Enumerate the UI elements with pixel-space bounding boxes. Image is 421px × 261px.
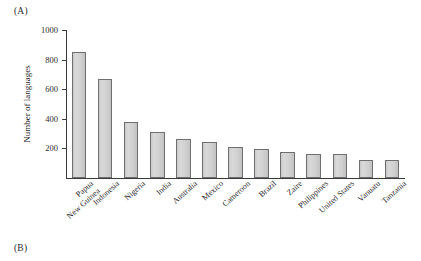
bar bbox=[72, 52, 87, 178]
x-tick-label: Cameroon bbox=[220, 179, 252, 209]
x-tick-label: Vanuatu bbox=[356, 179, 382, 204]
x-tick-label: Zaire bbox=[285, 179, 304, 198]
figure-panel-a: (A) Number of languages 2004006008001000… bbox=[0, 0, 421, 261]
bar bbox=[124, 122, 139, 178]
bar bbox=[359, 160, 374, 179]
x-tick-label: Brazil bbox=[257, 179, 278, 199]
bar bbox=[385, 160, 400, 178]
y-axis-title: Number of languages bbox=[20, 30, 34, 178]
y-tick-label: 400 bbox=[45, 114, 58, 124]
bar bbox=[202, 142, 217, 178]
bar bbox=[150, 132, 165, 178]
bar-series bbox=[66, 30, 405, 178]
x-axis-tick-labels: Papua New GuineaIndonesiaNigeriaIndiaAus… bbox=[66, 179, 411, 241]
bar bbox=[306, 154, 321, 178]
bar bbox=[333, 154, 348, 178]
y-tick-label: 800 bbox=[45, 55, 58, 65]
bar bbox=[98, 79, 113, 178]
y-tick-label: 200 bbox=[45, 143, 58, 153]
bar bbox=[176, 139, 191, 178]
bar bbox=[228, 147, 243, 178]
x-tick-label: Nigeria bbox=[123, 179, 148, 202]
panel-a-label: (A) bbox=[14, 6, 28, 16]
y-tick-label: 1000 bbox=[41, 25, 58, 35]
x-tick-label: India bbox=[155, 179, 174, 197]
x-tick-label: Australia bbox=[171, 179, 200, 206]
y-axis-title-text: Number of languages bbox=[22, 65, 32, 142]
y-tick-label: 600 bbox=[45, 84, 58, 94]
bar bbox=[280, 152, 295, 178]
bar bbox=[254, 149, 269, 178]
x-tick-label: Tanzania bbox=[380, 179, 408, 206]
panel-b-label: (B) bbox=[14, 243, 27, 253]
plot-area: 2004006008001000 bbox=[66, 30, 405, 178]
